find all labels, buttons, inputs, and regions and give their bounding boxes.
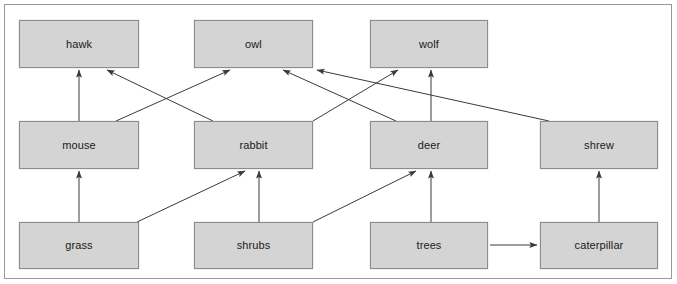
node-rabbit[interactable]: rabbit — [194, 121, 313, 169]
food-web-diagram: hawkowlwolfmouserabbitdeershrewgrassshru… — [0, 0, 677, 284]
node-deer[interactable]: deer — [370, 121, 488, 169]
node-trees[interactable]: trees — [370, 222, 488, 269]
node-label-wolf: wolf — [419, 39, 439, 50]
node-caterpillar[interactable]: caterpillar — [540, 222, 658, 269]
node-label-rabbit: rabbit — [239, 140, 267, 151]
node-label-caterpillar: caterpillar — [575, 240, 624, 251]
node-shrew[interactable]: shrew — [540, 121, 658, 169]
node-label-hawk: hawk — [66, 39, 92, 50]
node-owl[interactable]: owl — [194, 20, 313, 68]
node-label-owl: owl — [245, 39, 262, 50]
node-label-trees: trees — [417, 240, 442, 251]
node-hawk[interactable]: hawk — [19, 20, 139, 68]
node-label-shrubs: shrubs — [237, 240, 271, 251]
node-label-deer: deer — [418, 140, 440, 151]
node-label-mouse: mouse — [62, 140, 96, 151]
node-mouse[interactable]: mouse — [19, 121, 139, 169]
node-shrubs[interactable]: shrubs — [194, 222, 313, 269]
node-label-grass: grass — [65, 240, 92, 251]
node-wolf[interactable]: wolf — [370, 20, 488, 68]
node-label-shrew: shrew — [584, 140, 614, 151]
node-grass[interactable]: grass — [19, 222, 139, 269]
